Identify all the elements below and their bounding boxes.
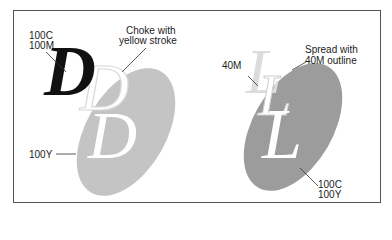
label-40m: 40M	[222, 61, 241, 71]
label-40m-outline: 40M outline	[305, 56, 357, 66]
label-spread-with: Spread with	[305, 45, 358, 55]
left-knockout-letter-d: D	[87, 97, 137, 173]
label-100m: 100M	[29, 41, 54, 51]
label-100y: 100Y	[29, 150, 52, 160]
label-yellow-stroke: yellow stroke	[119, 36, 177, 46]
label-100y-right: 100Y	[318, 190, 341, 200]
right-knockout-letter-l: L	[261, 94, 302, 174]
